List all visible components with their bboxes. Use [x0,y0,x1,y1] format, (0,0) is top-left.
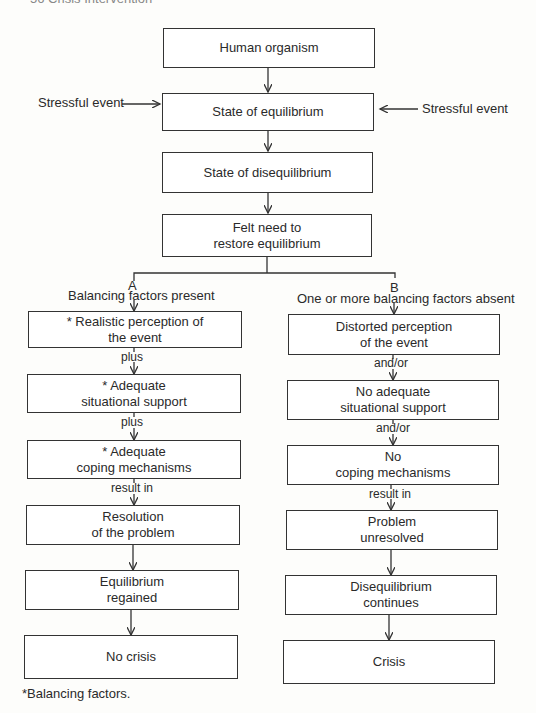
box-text-line2: regained [107,590,158,606]
box-text: State of disequilibrium [204,165,332,181]
stressful-event-left-label: Stressful event [38,95,124,110]
box-text-line1: * Adequate [102,378,166,394]
box-a-resolution: Resolution of the problem [26,505,240,545]
connector-result-in-b: result in [369,487,411,501]
connector-result-in-a: result in [111,481,153,495]
box-text-line2: restore equilibrium [214,236,321,252]
box-text-line2: continues [363,595,419,611]
connector-plus-1: plus [121,350,143,364]
branch-b-heading: One or more balancing factors absent [297,291,515,306]
box-b-distorted-perception: Distorted perception of the event [288,314,500,355]
connector-and-or-1: and/or [374,356,408,370]
box-text-line2: of the event [360,335,428,351]
box-text: Crisis [373,654,406,670]
box-text-line1: Felt need to [233,220,302,236]
box-state-of-equilibrium: State of equilibrium [162,93,374,131]
box-text: State of equilibrium [212,104,323,120]
box-text: Human organism [220,40,319,56]
footnote: *Balancing factors. [22,686,130,701]
box-b-no-situational-support: No adequate situational support [287,380,499,420]
box-b-disequilibrium-continues: Disequilibrium continues [285,575,497,615]
box-a-coping-mechanisms: * Adequate coping mechanisms [27,440,241,479]
box-text-line2: coping mechanisms [336,465,451,481]
box-state-of-disequilibrium: State of disequilibrium [162,152,373,193]
box-text: No crisis [106,649,156,665]
box-text-line2: the event [108,330,162,346]
box-text-line1: Distorted perception [336,319,452,335]
box-text-line2: unresolved [360,530,424,546]
box-a-realistic-perception: * Realistic perception of the event [28,311,242,348]
box-b-no-coping-mechanisms: No coping mechanisms [287,445,499,485]
connector-and-or-2: and/or [376,421,410,435]
box-text-line1: * Adequate [102,444,166,460]
box-text-line1: Equilibrium [100,574,164,590]
box-text-line1: No [385,449,402,465]
box-human-organism: Human organism [163,28,375,68]
box-text-line1: * Realistic perception of [67,314,204,330]
box-a-situational-support: * Adequate situational support [27,374,241,413]
box-text-line2: situational support [340,400,446,416]
box-a-no-crisis: No crisis [24,635,238,679]
stressful-event-right-label: Stressful event [422,101,508,116]
box-text-line2: coping mechanisms [77,460,192,476]
box-text-line1: Disequilibrium [350,579,432,595]
branch-a-heading: Balancing factors present [68,288,215,303]
box-b-crisis: Crisis [283,640,495,684]
box-felt-need: Felt need to restore equilibrium [162,214,372,257]
connector-plus-2: plus [121,415,143,429]
box-text-line2: of the problem [91,525,174,541]
box-text-line2: situational support [81,394,187,410]
box-b-problem-unresolved: Problem unresolved [286,510,498,550]
box-text-line1: Problem [368,514,416,530]
box-text-line1: Resolution [102,509,163,525]
box-a-equilibrium-regained: Equilibrium regained [25,570,239,610]
box-text-line1: No adequate [356,384,430,400]
